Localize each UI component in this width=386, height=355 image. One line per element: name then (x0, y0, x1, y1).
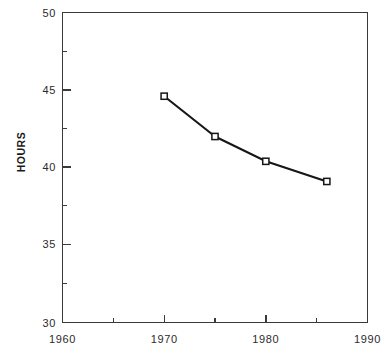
y-tick-label-40: 40 (43, 161, 56, 173)
plot-frame (63, 13, 368, 323)
data-point-marker[interactable]: 1975: 42 (212, 133, 218, 139)
y-tick-label-45: 45 (43, 84, 56, 96)
y-tick-label-35: 35 (43, 238, 56, 250)
data-series-hours: 1970: 44.61975: 421980: 40.41986: 39.1 (161, 93, 330, 184)
series-line (164, 96, 327, 181)
x-tick-label-1980: 1980 (252, 333, 279, 345)
chart-container: 50 45 40 35 30 1960 1970 1980 1990 HOURS… (0, 0, 386, 355)
y-axis-title: HOURS (15, 132, 27, 172)
y-axis-major-ticks (63, 13, 71, 323)
data-point-marker[interactable]: 1980: 40.4 (263, 158, 269, 164)
y-tick-label-50: 50 (43, 7, 56, 19)
x-tick-label-1990: 1990 (354, 333, 381, 345)
x-tick-label-1970: 1970 (151, 333, 178, 345)
y-tick-label-30: 30 (43, 317, 56, 329)
data-point-marker[interactable]: 1970: 44.6 (161, 93, 167, 99)
x-tick-label-1960: 1960 (49, 333, 76, 345)
line-chart: 50 45 40 35 30 1960 1970 1980 1990 HOURS… (0, 0, 386, 355)
data-point-marker[interactable]: 1986: 39.1 (324, 178, 330, 184)
